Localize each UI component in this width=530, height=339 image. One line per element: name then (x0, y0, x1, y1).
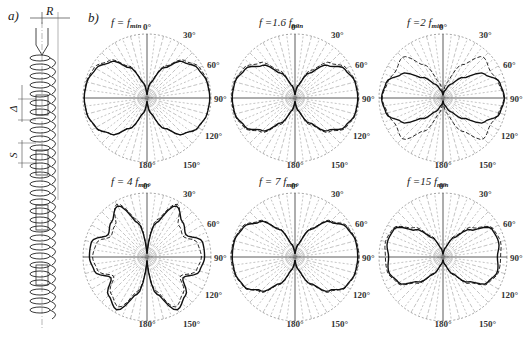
angle-label-150: 150° (331, 160, 349, 170)
angle-label-90: 90° (214, 94, 227, 104)
angle-label-60: 60° (503, 219, 516, 229)
angle-label-30: 30° (183, 30, 196, 40)
angle-label-90: 90° (510, 94, 523, 104)
plot-title: f =15 fmin (407, 175, 448, 189)
angle-label-120: 120° (205, 290, 223, 300)
angle-label-30: 30° (331, 189, 344, 199)
panel-b-polar-plots: b)0°30°60°90°120°150°180°f = fmin0°30°60… (83, 10, 523, 329)
polar-plot-p1: 0°30°60°90°120°150°180°f = fmin (83, 16, 227, 170)
angle-label-120: 120° (353, 131, 371, 141)
angle-label-90: 90° (214, 253, 227, 263)
angle-label-150: 150° (331, 319, 349, 329)
angle-label-120: 120° (353, 290, 371, 300)
pitch-label: S (7, 152, 19, 158)
angle-label-120: 120° (501, 131, 519, 141)
angle-label-180: 180° (286, 160, 304, 170)
angle-label-120: 120° (501, 290, 519, 300)
angle-label-60: 60° (207, 219, 220, 229)
plot-title: f = 7 fmin (259, 175, 298, 189)
figure: a)RΔS b)0°30°60°90°120°150°180°f = fmin0… (0, 0, 530, 339)
angle-label-150: 150° (479, 319, 497, 329)
polar-plot-p5: 0°30°60°90°120°150°180°f = 7 fmin (231, 175, 375, 329)
angle-label-180: 180° (138, 319, 156, 329)
angle-label-90: 90° (362, 253, 375, 263)
angle-label-60: 60° (355, 60, 368, 70)
radius-label: R (45, 4, 54, 18)
panel-b-letter: b) (88, 10, 99, 25)
plot-title: f =1.6 fmin (259, 16, 303, 30)
angle-label-60: 60° (503, 60, 516, 70)
angle-label-30: 30° (183, 189, 196, 199)
angle-label-60: 60° (207, 60, 220, 70)
plot-title: f = fmin (111, 16, 141, 30)
angle-label-150: 150° (183, 160, 201, 170)
polar-plot-p6: 0°30°60°90°120°150°180°f =15 fmin (379, 175, 523, 329)
angle-label-150: 150° (183, 319, 201, 329)
angle-label-60: 60° (355, 219, 368, 229)
angle-label-30: 30° (479, 30, 492, 40)
angle-label-90: 90° (362, 94, 375, 104)
polar-plot-p4: 0°30°60°90°120°150°180°f = 4 fmin (83, 175, 227, 329)
angle-label-150: 150° (479, 160, 497, 170)
panel-a-letter: a) (8, 8, 19, 23)
angle-label-180: 180° (434, 160, 452, 170)
angle-label-180: 180° (434, 319, 452, 329)
polar-plot-p3: 0°30°60°90°120°150°180°f =2 fmin (379, 16, 523, 170)
angle-label-180: 180° (286, 319, 304, 329)
angle-label-0: 0° (143, 22, 152, 32)
plot-title: f =2 fmin (407, 16, 443, 30)
angle-label-90: 90° (510, 253, 523, 263)
plot-title: f = 4 fmin (111, 175, 150, 189)
angle-label-180: 180° (138, 160, 156, 170)
polar-plot-p2: 0°30°60°90°120°150°180°f =1.6 fmin (231, 16, 375, 170)
angle-label-120: 120° (205, 131, 223, 141)
gap-label: Δ (7, 106, 19, 113)
angle-label-30: 30° (479, 189, 492, 199)
angle-label-30: 30° (331, 30, 344, 40)
panel-a-spring-drawing: a)RΔS (7, 4, 70, 330)
